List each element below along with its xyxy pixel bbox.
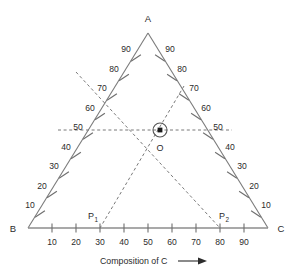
left-label-80: 80 bbox=[109, 64, 119, 74]
construction-line-left80-to-p2 bbox=[76, 72, 220, 228]
point-p1-label: P 1 bbox=[88, 211, 99, 223]
left-label-90: 90 bbox=[121, 44, 131, 54]
right-label-10: 10 bbox=[261, 200, 271, 210]
left-label-20: 20 bbox=[37, 181, 47, 191]
ternary-diagram-canvas: A B C 10 20 30 40 50 60 70 80 90 10 20 3… bbox=[0, 0, 298, 272]
point-o-dot bbox=[158, 128, 163, 133]
triangle-edges bbox=[28, 33, 268, 228]
left-label-70: 70 bbox=[97, 83, 107, 93]
right-edge-tick-labels: 10 20 30 40 50 60 70 80 90 bbox=[165, 44, 271, 210]
construction-line-right70-to-p1 bbox=[100, 86, 184, 228]
right-label-20: 20 bbox=[249, 181, 259, 191]
bottom-label-10: 10 bbox=[47, 237, 57, 247]
vertex-label-b: B bbox=[10, 223, 16, 234]
left-label-50: 50 bbox=[73, 122, 83, 132]
axis-title-composition-of-c: Composition of C bbox=[100, 256, 168, 266]
bottom-label-70: 70 bbox=[191, 237, 201, 247]
point-p2-subscript: 2 bbox=[226, 216, 230, 223]
edge-ac-right bbox=[148, 33, 268, 228]
vertex-label-a: A bbox=[145, 13, 152, 24]
bottom-label-50: 50 bbox=[143, 237, 153, 247]
right-label-50: 50 bbox=[213, 122, 223, 132]
axis-arrow-head-icon bbox=[198, 257, 207, 264]
left-edge-tick-labels: 10 20 30 40 50 60 70 80 90 bbox=[25, 44, 131, 210]
left-label-30: 30 bbox=[49, 161, 59, 171]
point-p2-label: P 2 bbox=[219, 211, 230, 223]
right-label-80: 80 bbox=[177, 64, 187, 74]
bottom-label-80: 80 bbox=[215, 237, 225, 247]
right-label-60: 60 bbox=[201, 103, 211, 113]
right-label-90: 90 bbox=[165, 44, 175, 54]
left-label-40: 40 bbox=[61, 142, 71, 152]
bottom-label-60: 60 bbox=[167, 237, 177, 247]
right-label-40: 40 bbox=[225, 142, 235, 152]
construction-lines bbox=[58, 72, 232, 228]
left-edge-ticks bbox=[35, 55, 141, 217]
bottom-label-20: 20 bbox=[71, 237, 81, 247]
left-label-60: 60 bbox=[85, 103, 95, 113]
bottom-axis-tick-labels: 10 20 30 40 50 60 70 80 90 bbox=[47, 237, 249, 247]
point-p2-letter: P bbox=[219, 211, 225, 221]
bottom-label-40: 40 bbox=[119, 237, 129, 247]
bottom-label-90: 90 bbox=[239, 237, 249, 247]
vertex-label-c: C bbox=[278, 223, 285, 234]
axis-title-group: Composition of C bbox=[100, 256, 207, 266]
right-label-30: 30 bbox=[237, 161, 247, 171]
right-edge-ticks bbox=[155, 55, 261, 217]
left-label-10: 10 bbox=[25, 200, 35, 210]
bottom-label-30: 30 bbox=[95, 237, 105, 247]
ternary-diagram-figure: A B C 10 20 30 40 50 60 70 80 90 10 20 3… bbox=[0, 0, 298, 272]
point-o-label: O bbox=[156, 143, 163, 153]
point-p1-letter: P bbox=[88, 211, 94, 221]
point-p1-subscript: 1 bbox=[95, 216, 99, 223]
right-label-70: 70 bbox=[189, 83, 199, 93]
